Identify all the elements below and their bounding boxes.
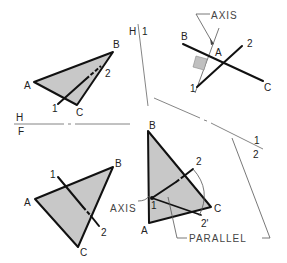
top-view: A B C 1 2 <box>24 39 120 118</box>
vertex-a: A <box>24 197 31 208</box>
vertex-c: C <box>214 203 221 214</box>
auxiliary-view-2: AXIS PARALLEL B A C 1 2 2' <box>110 120 270 244</box>
point-2: 2 <box>247 38 253 49</box>
vertex-a: A <box>24 80 31 91</box>
vertex-a: A <box>215 47 222 58</box>
label-2: 2 <box>253 149 259 160</box>
descriptive-geometry-diagram: H F H 1 1 2 A B C 1 2 AXIS <box>0 0 287 263</box>
vertex-b: B <box>115 158 122 169</box>
vertex-a: A <box>141 225 148 236</box>
point-1: 1 <box>52 103 58 114</box>
reference-line-hf: H F <box>14 112 130 137</box>
parallel-label: PARALLEL <box>189 233 247 244</box>
reference-line-h1: H 1 <box>129 24 148 106</box>
plane-abc <box>34 52 113 105</box>
reference-line-12: 1 2 <box>154 98 263 160</box>
point-2: 2 <box>101 227 107 238</box>
point-1: 1 <box>151 200 157 211</box>
vertex-c: C <box>76 107 83 118</box>
plane-square <box>193 56 207 70</box>
point-2: 2 <box>105 68 111 79</box>
label-1: 1 <box>142 26 148 37</box>
vertex-b: B <box>149 120 156 131</box>
point-2-prime: 2' <box>201 218 209 229</box>
axis-label: AXIS <box>211 10 238 21</box>
label-f: F <box>18 126 24 137</box>
point-2: 2 <box>196 156 202 167</box>
label-1: 1 <box>254 135 260 146</box>
front-view: A B C 1 2 <box>24 158 122 258</box>
label-h: H <box>129 26 136 37</box>
vertex-c: C <box>264 82 271 93</box>
point-1: 1 <box>190 83 196 94</box>
point-1: 1 <box>50 169 56 180</box>
axis-label: AXIS <box>110 203 137 214</box>
label-h: H <box>16 112 23 123</box>
vertex-c: C <box>80 247 87 258</box>
vertex-b: B <box>113 39 120 50</box>
auxiliary-view-1: AXIS B A C 1 2 <box>181 10 271 94</box>
vertex-b: B <box>181 31 188 42</box>
